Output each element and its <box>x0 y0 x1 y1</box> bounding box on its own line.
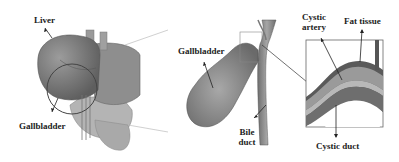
liver-arrow <box>45 28 52 38</box>
label-cystic-artery: Cystic artery <box>299 12 329 32</box>
vertical-vessel <box>375 40 379 70</box>
label-bile-duct-line2: duct <box>237 137 257 147</box>
label-bile-duct-line1: Bile <box>237 127 257 137</box>
callout-line-top <box>125 30 168 45</box>
bile-duct-shape <box>258 20 276 145</box>
anatomy-overview-panel <box>38 28 168 150</box>
intestine-shape <box>95 120 130 150</box>
label-cystic-artery-line1: Cystic <box>299 12 329 22</box>
label-gallbladder-middle: Gallbladder <box>178 46 225 56</box>
arrowhead <box>360 29 364 33</box>
diagram-canvas <box>0 0 399 162</box>
label-bile-duct: Bile duct <box>237 127 257 147</box>
vessel-shape <box>100 32 107 50</box>
callout-line-bottom <box>128 125 168 132</box>
arrowhead <box>254 115 258 118</box>
label-fat-tissue: Fat tissue <box>344 16 381 26</box>
zoom-connector-line <box>262 45 307 82</box>
cystic-cross-section-panel <box>306 29 383 138</box>
label-cystic-duct: Cystic duct <box>316 141 359 151</box>
arrowhead <box>334 134 338 138</box>
label-cystic-artery-line2: artery <box>299 22 329 32</box>
label-gallbladder-left: Gallbladder <box>19 121 66 131</box>
label-liver: Liver <box>34 15 55 25</box>
